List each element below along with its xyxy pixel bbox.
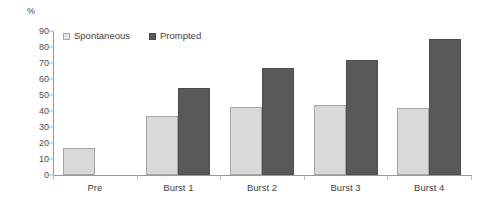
bar-slot: [314, 31, 346, 175]
bar-spontaneous: [146, 116, 178, 175]
y-axis-tick-label: 60: [39, 75, 49, 84]
x-axis-category-label: Burst 4: [387, 182, 471, 194]
x-axis-separator-tick: [220, 175, 221, 180]
legend-label-prompted: Prompted: [160, 31, 201, 41]
y-axis-unit-label: %: [27, 6, 35, 16]
bar-prompted: [262, 68, 294, 175]
x-axis-category-label: Pre: [53, 182, 137, 194]
x-axis-category-label: Burst 2: [220, 182, 304, 194]
x-axis-category-label: Burst 3: [304, 182, 388, 194]
y-axis-tick-label: 90: [39, 27, 49, 36]
bar-group: [387, 31, 471, 175]
bar-slot: [262, 31, 294, 175]
bar-group: [137, 31, 221, 175]
bar-prompted: [429, 39, 461, 175]
x-axis-separator-tick: [137, 175, 138, 180]
x-axis-separator-tick: [387, 175, 388, 180]
bar-slot: [178, 31, 210, 175]
x-axis-category-labels: PreBurst 1Burst 2Burst 3Burst 4: [53, 182, 471, 194]
bar-slot: [230, 31, 262, 175]
x-axis-separator-tick: [53, 175, 54, 180]
bar-slot: [95, 31, 127, 175]
bar-slot: [397, 31, 429, 175]
legend-item-prompted: Prompted: [149, 31, 201, 41]
bar-prompted: [178, 88, 210, 175]
bar-spontaneous: [230, 107, 262, 175]
bar-prompted: [346, 60, 378, 175]
bar-groups: [53, 31, 471, 175]
x-axis-line: [53, 175, 472, 176]
bar-slot: [346, 31, 378, 175]
legend-label-spontaneous: Spontaneous: [74, 31, 130, 41]
bar-spontaneous: [397, 108, 429, 175]
bar-slot: [429, 31, 461, 175]
y-axis-tick-label: 30: [39, 123, 49, 132]
chart-legend: Spontaneous Prompted: [63, 31, 201, 41]
x-axis-separator-tick: [471, 175, 472, 180]
plot-area: 0102030405060708090: [53, 31, 471, 175]
y-axis-tick-label: 40: [39, 107, 49, 116]
y-axis-tick-label: 80: [39, 43, 49, 52]
bar-chart: % 0102030405060708090 PreBurst 1Burst 2B…: [0, 0, 477, 204]
y-axis-tick-label: 70: [39, 59, 49, 68]
x-axis-category-label: Burst 1: [137, 182, 221, 194]
bar-spontaneous: [314, 105, 346, 175]
bar-group: [53, 31, 137, 175]
legend-item-spontaneous: Spontaneous: [63, 31, 130, 41]
y-axis-tick-label: 10: [39, 155, 49, 164]
bar-group: [220, 31, 304, 175]
bar-group: [304, 31, 388, 175]
y-axis-tick-label: 50: [39, 91, 49, 100]
legend-swatch-spontaneous-icon: [63, 33, 70, 40]
y-axis-tick-label: 20: [39, 139, 49, 148]
legend-swatch-prompted-icon: [149, 33, 156, 40]
bar-slot: [63, 31, 95, 175]
bar-spontaneous: [63, 148, 95, 175]
x-axis-separator-tick: [304, 175, 305, 180]
bar-slot: [146, 31, 178, 175]
